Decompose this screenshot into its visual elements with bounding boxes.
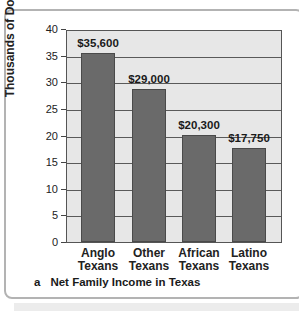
y-tick-label: 5 <box>38 209 58 221</box>
chart-title: Net Family Income in Texas <box>50 276 200 288</box>
panel-letter: a <box>34 276 40 288</box>
y-axis-label: Thousands of Dollars <box>3 0 17 136</box>
bar-value-label: $17,750 <box>219 132 279 144</box>
x-category-label: LatinoTexans <box>219 247 279 273</box>
bar <box>232 148 266 242</box>
y-tick-label: 25 <box>38 103 58 115</box>
y-tick-label: 40 <box>38 23 58 35</box>
chart-caption: aNet Family Income in Texas <box>34 276 200 288</box>
y-tick-label: 30 <box>38 76 58 88</box>
bar <box>81 53 115 242</box>
y-tick-label: 15 <box>38 156 58 168</box>
y-tick-label: 10 <box>38 183 58 195</box>
bar <box>132 89 166 242</box>
bar-value-label: $35,600 <box>68 37 128 49</box>
y-tick-label: 20 <box>38 130 58 142</box>
y-tick-label: 35 <box>38 50 58 62</box>
y-tick-label: 0 <box>38 236 58 248</box>
bar-value-label: $29,000 <box>119 73 179 85</box>
bar <box>182 135 216 242</box>
card-shadow <box>14 303 299 311</box>
bar-value-label: $20,300 <box>169 119 229 131</box>
